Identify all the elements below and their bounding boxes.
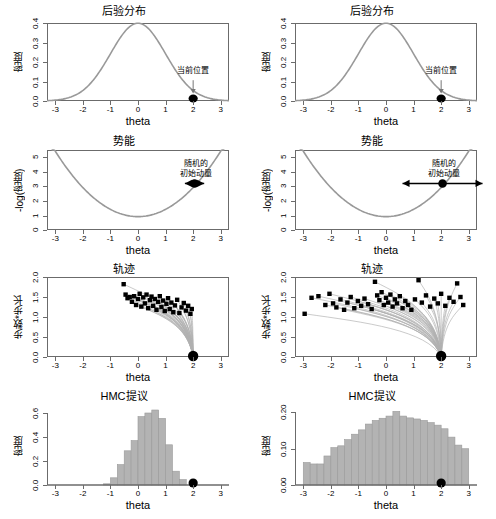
y-tick-label: 2.0 [279, 266, 289, 288]
trajectory-endpoint [458, 295, 462, 299]
trajectory-endpoint [432, 296, 436, 300]
trajectory-endpoint [398, 294, 402, 298]
annotation-current-position: 当前位置 [167, 66, 219, 75]
trajectory-endpoint [428, 304, 432, 308]
x-tick-label: 0 [377, 105, 395, 114]
particle-dot [190, 179, 199, 188]
x-tick-label: 1 [157, 105, 175, 114]
trajectory-endpoint [166, 296, 170, 300]
x-tick-label: -2 [74, 361, 92, 370]
trajectory-endpoint [352, 306, 356, 310]
histogram-bar [358, 430, 365, 485]
x-tick-label: -1 [101, 105, 119, 114]
histogram-bar [386, 416, 393, 485]
histogram-bar [179, 480, 186, 485]
y-tick-label: 0.20 [279, 401, 289, 423]
y-tick [291, 297, 295, 298]
x-tick-label: -3 [294, 489, 312, 498]
y-tick [291, 62, 295, 63]
x-tick-label: 3 [212, 234, 230, 243]
x-tick-label: -3 [46, 234, 64, 243]
trajectory-endpoint [338, 297, 342, 301]
trajectory-endpoint [390, 304, 394, 308]
y-tick [291, 230, 295, 231]
x-tick-label: 1 [157, 489, 175, 498]
y-tick [43, 62, 47, 63]
y-axis-line [295, 412, 296, 485]
trajectory-endpoint [409, 308, 413, 312]
y-tick [291, 337, 295, 338]
x-tick-label: 2 [184, 234, 202, 243]
trajectory-endpoint [134, 303, 138, 307]
hmc-figure: 后验分布-3-2-101230.00.10.20.30.4theta密度当前位置… [0, 0, 496, 519]
x-tick-label: 2 [432, 105, 450, 114]
panel-hmc-proposal-right: HMC提议-3-2-101230.000.100.20theta密度 [248, 385, 496, 519]
x-tick-label: -1 [101, 489, 119, 498]
x-tick-label: 0 [129, 361, 147, 370]
x-axis-title: theta [47, 244, 229, 256]
y-tick-label: 0.5 [279, 326, 289, 348]
trajectory-endpoint [359, 304, 363, 308]
x-tick-label: 2 [432, 234, 450, 243]
histogram-bar [372, 420, 379, 485]
histogram-bar [152, 410, 159, 485]
trajectory-endpoint [159, 305, 163, 309]
y-tick [43, 101, 47, 102]
y-tick-label: 2.0 [31, 266, 41, 288]
histogram-bar [365, 424, 372, 485]
y-tick [43, 82, 47, 83]
y-tick-label: 0.2 [31, 450, 41, 472]
trajectory-endpoint [128, 295, 132, 299]
histogram-bar [393, 411, 400, 485]
x-tick-label: 3 [212, 489, 230, 498]
trajectory-endpoint [132, 294, 136, 298]
y-tick [43, 413, 47, 414]
x-tick-label: 1 [405, 361, 423, 370]
histogram-bar [117, 465, 124, 485]
y-tick-label: 1.0 [279, 306, 289, 328]
y-tick-label: 0.2 [279, 51, 289, 73]
trajectory-endpoint [158, 294, 162, 298]
trajectory-endpoint [309, 296, 313, 300]
y-tick-label: 0.4 [31, 426, 41, 448]
histogram-bar [338, 446, 345, 485]
trajectory-endpoint [362, 296, 366, 300]
histogram-bar [434, 425, 441, 485]
trajectory-endpoint [345, 300, 349, 304]
x-tick-label: -2 [322, 105, 340, 114]
trajectory-endpoint [382, 303, 386, 307]
y-tick [291, 172, 295, 173]
y-tick-label: 5 [31, 146, 41, 168]
density-curve [295, 23, 477, 100]
x-tick-label: 1 [405, 489, 423, 498]
trajectory-endpoint [451, 300, 455, 304]
trajectory-endpoint [316, 294, 320, 298]
momentum-arrow-head-left [403, 180, 410, 187]
histogram-bar [331, 448, 338, 485]
y-tick-label: 0.00 [279, 474, 289, 496]
histogram-bar [420, 420, 427, 485]
x-tick-label: 0 [377, 234, 395, 243]
trajectory-endpoint [302, 312, 306, 316]
trajectory-endpoint [406, 303, 410, 307]
y-tick-label: 1.0 [31, 306, 41, 328]
x-tick-label: -2 [322, 361, 340, 370]
histogram-bar [124, 451, 131, 485]
y-tick [291, 201, 295, 202]
x-tick-label: -3 [294, 361, 312, 370]
x-axis-title: theta [295, 115, 477, 127]
histogram-bar [138, 417, 145, 485]
trajectory-endpoint [393, 297, 397, 301]
histogram-bar [407, 418, 414, 485]
y-tick-label: 0.3 [31, 32, 41, 54]
x-tick-label: -1 [349, 105, 367, 114]
y-tick-label: 0.2 [31, 51, 41, 73]
y-tick [291, 317, 295, 318]
x-axis-title: theta [295, 371, 477, 383]
trajectory-endpoint [188, 312, 192, 316]
y-axis-title: 密度 [261, 23, 273, 101]
trajectory-endpoint [151, 304, 155, 308]
y-tick-label: 0.4 [31, 12, 41, 34]
histogram-bar [159, 418, 166, 485]
y-tick [291, 157, 295, 158]
